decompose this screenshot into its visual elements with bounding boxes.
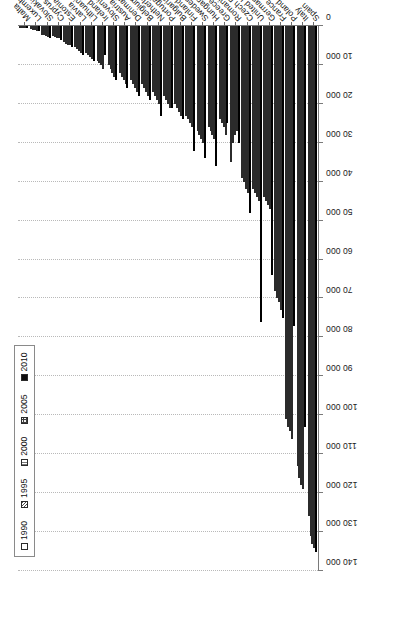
bar-group xyxy=(241,26,252,571)
legend-item-2010[interactable]: 2010 xyxy=(20,352,29,381)
bar-group xyxy=(274,26,285,571)
axis-tick-50000 xyxy=(318,220,323,221)
axis-tick-label: 0 xyxy=(326,12,331,22)
legend-label: 1990 xyxy=(20,521,29,540)
bar-group xyxy=(297,26,308,571)
bar-hungary-2010 xyxy=(215,26,217,166)
bar-sweden-2010 xyxy=(204,26,206,158)
bar-austria-2010 xyxy=(126,26,128,88)
axis-tick-label: 60 000 xyxy=(326,246,353,256)
bar-ireland-2010 xyxy=(104,26,106,55)
bar-germany-2010 xyxy=(271,26,273,275)
bar-group xyxy=(41,26,52,571)
axis-tick-label: 110 000 xyxy=(326,441,357,451)
bar-greece-2010 xyxy=(226,26,228,123)
axis-tick-label: 40 000 xyxy=(326,168,353,178)
legend-label: 2005 xyxy=(20,395,29,414)
axis-tick-label: 80 000 xyxy=(326,324,353,334)
axis-tick-90000 xyxy=(318,375,323,376)
checkered-square-icon xyxy=(21,417,28,424)
bar-group xyxy=(285,26,296,571)
bar-group xyxy=(174,26,185,571)
bar-belgium-2010 xyxy=(149,26,151,100)
axis-tick-label: 30 000 xyxy=(326,129,353,139)
chart-figure: 19901995200020052010 010 00020 00030 000… xyxy=(0,0,417,635)
bar-group xyxy=(230,26,241,571)
axis-tick-10000 xyxy=(318,64,323,65)
axis-tick-label: 130 000 xyxy=(326,518,357,528)
bar-group xyxy=(130,26,141,571)
axis-tick-80000 xyxy=(318,336,323,337)
bar-group xyxy=(74,26,85,571)
bar-denmark-2010 xyxy=(138,26,140,96)
legend-label: 2010 xyxy=(20,352,29,371)
bar-group xyxy=(185,26,196,571)
open-square-icon xyxy=(21,543,28,550)
bar-group xyxy=(152,26,163,571)
bar-luxembourg-2010 xyxy=(38,26,40,31)
legend-item-2005[interactable]: 2005 xyxy=(20,395,29,424)
legend-item-1995[interactable]: 1995 xyxy=(20,479,29,508)
legend-label: 2000 xyxy=(20,437,29,456)
bar-bulgaria-2010 xyxy=(182,26,184,119)
bar-czech-republic-2010 xyxy=(249,26,251,213)
plot-area xyxy=(18,26,318,571)
bar-group xyxy=(263,26,274,571)
bar-group xyxy=(208,26,219,571)
bar-netherlands-2010 xyxy=(160,26,162,116)
axis-tick-label: 70 000 xyxy=(326,285,353,295)
axis-tick-60000 xyxy=(318,259,323,260)
axis-tick-120000 xyxy=(318,492,323,493)
bar-france-2010 xyxy=(282,26,284,318)
axis-tick-label: 140 000 xyxy=(326,557,357,567)
bar-latvia-2010 xyxy=(82,26,84,55)
bar-romania-2010 xyxy=(238,26,240,143)
axis-tick-110000 xyxy=(318,453,323,454)
bar-group xyxy=(63,26,74,571)
axis-tick-label: 20 000 xyxy=(326,90,353,100)
axis-tick-label: 50 000 xyxy=(326,207,353,217)
bar-group xyxy=(163,26,174,571)
legend-item-1990[interactable]: 1990 xyxy=(20,521,29,550)
bar-italy-2010 xyxy=(304,26,306,427)
legend-label: 1995 xyxy=(20,479,29,498)
bar-group xyxy=(119,26,130,571)
bar-group xyxy=(85,26,96,571)
bar-group xyxy=(97,26,108,571)
bar-estonia-2010 xyxy=(71,26,73,47)
bar-lithuania-2010 xyxy=(93,26,95,61)
axis-tick-100000 xyxy=(318,414,323,415)
bar-group xyxy=(197,26,208,571)
bar-group xyxy=(108,26,119,571)
bar-slovenia-2010 xyxy=(115,26,117,81)
chart-legend: 19901995200020052010 xyxy=(14,345,35,557)
axis-tick-40000 xyxy=(318,181,323,182)
bar-spain-2010 xyxy=(315,26,317,552)
axis-tick-label: 10 000 xyxy=(326,51,353,61)
bar-group xyxy=(52,26,63,571)
bar-group xyxy=(141,26,152,571)
bar-cyprus-2010 xyxy=(60,26,62,40)
bar-poland-2010 xyxy=(293,26,295,326)
legend-item-2000[interactable]: 2000 xyxy=(20,437,29,466)
bar-group xyxy=(252,26,263,571)
bar-finland-2010 xyxy=(193,26,195,151)
bar-malta-2010 xyxy=(26,26,28,28)
axis-tick-130000 xyxy=(318,531,323,532)
bar-united-kingdom-2010 xyxy=(260,26,262,322)
bar-group xyxy=(219,26,230,571)
value-axis-line xyxy=(318,26,319,571)
bar-portugal-2010 xyxy=(171,26,173,108)
axis-tick-140000 xyxy=(318,570,323,571)
chart-screenshot: 19901995200020052010 010 00020 00030 000… xyxy=(0,0,417,635)
axis-tick-label: 120 000 xyxy=(326,480,357,490)
axis-tick-30000 xyxy=(318,142,323,143)
axis-tick-label: 90 000 xyxy=(326,363,353,373)
bar-slovakia-2010 xyxy=(49,26,51,38)
dotted-square-icon xyxy=(21,459,28,466)
filled-square-icon xyxy=(21,375,28,382)
axis-tick-20000 xyxy=(318,103,323,104)
hatched-square-icon xyxy=(21,501,28,508)
axis-tick-label: 100 000 xyxy=(326,402,357,412)
axis-tick-0 xyxy=(318,25,323,26)
